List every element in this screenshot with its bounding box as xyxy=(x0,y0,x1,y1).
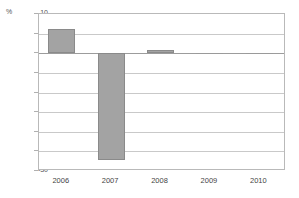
plot-area xyxy=(38,13,285,170)
x-axis-tick-label: 2006 xyxy=(41,176,81,185)
y-axis-tick-mark xyxy=(34,170,38,171)
x-axis-tick-label: 2009 xyxy=(189,176,229,185)
bar xyxy=(196,53,223,54)
x-axis-tick-label: 2008 xyxy=(140,176,180,185)
bar-series xyxy=(39,14,284,169)
bar xyxy=(246,53,273,54)
bar xyxy=(48,29,75,54)
x-axis-tick-label: 2007 xyxy=(90,176,130,185)
chart-screenshot: % 1050-5-10-15-20-25-30 2006200720082009… xyxy=(0,0,299,198)
bar xyxy=(147,50,174,53)
x-axis-tick-label: 2010 xyxy=(238,176,278,185)
bar xyxy=(98,53,125,160)
